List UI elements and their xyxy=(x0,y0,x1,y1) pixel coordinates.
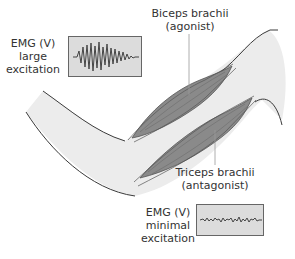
triceps-label: Triceps brachii (antagonist) xyxy=(162,166,268,192)
triceps-label-line2: (antagonist) xyxy=(162,179,268,192)
emg-minimal-label: EMG (V) minimal excitation xyxy=(138,206,198,245)
emg-large-trace xyxy=(69,37,143,78)
emg-minimal-label-line3: excitation xyxy=(138,232,198,245)
triceps-label-line1: Triceps brachii xyxy=(162,166,268,179)
biceps-label-line2: (agonist) xyxy=(140,20,240,33)
emg-large-label: EMG (V) large excitation xyxy=(2,37,64,76)
emg-minimal-trace xyxy=(197,205,265,237)
biceps-label: Biceps brachii (agonist) xyxy=(140,7,240,33)
emg-large-label-line1: EMG (V) xyxy=(2,37,64,50)
emg-minimal-trace-box xyxy=(196,204,264,236)
emg-minimal-label-line1: EMG (V) xyxy=(138,206,198,219)
emg-minimal-label-line2: minimal xyxy=(138,219,198,232)
emg-large-label-line2: large xyxy=(2,50,64,63)
emg-large-trace-box xyxy=(68,36,142,77)
biceps-label-line1: Biceps brachii xyxy=(140,7,240,20)
emg-large-label-line3: excitation xyxy=(2,63,64,76)
